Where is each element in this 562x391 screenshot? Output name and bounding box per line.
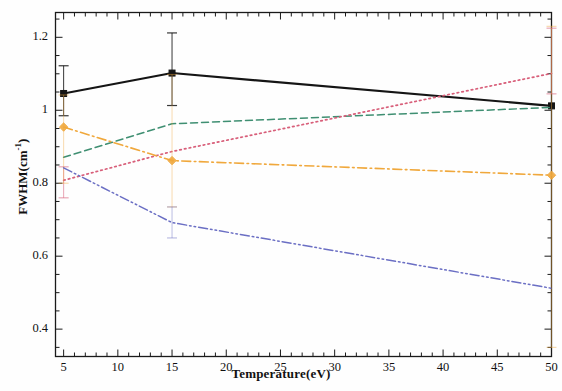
plot-canvas (0, 0, 562, 391)
y-tick-label: 0.8 (8, 175, 48, 190)
chart-figure: Temperature(eV) FWHM(cm-1) 5101520253035… (0, 0, 562, 391)
x-tick-label: 50 (532, 360, 562, 375)
data-point-marker-diamond (59, 123, 67, 131)
y-tick-label: 0.6 (8, 248, 48, 263)
y-axis-title-tail: ) (15, 139, 30, 143)
y-tick-label: 1 (8, 102, 48, 117)
series-line-blue-dashdotdot (64, 168, 552, 288)
x-tick-label: 45 (477, 360, 517, 375)
y-axis-title-exponent: -1 (13, 143, 23, 151)
x-tick-label: 5 (44, 360, 84, 375)
x-tick-label: 35 (369, 360, 409, 375)
x-tick-label: 30 (315, 360, 355, 375)
plot-frame (56, 13, 552, 357)
x-tick-label: 10 (98, 360, 138, 375)
x-tick-label: 25 (260, 360, 300, 375)
data-point-marker-diamond (547, 171, 555, 179)
y-tick-label: 1.2 (8, 29, 48, 44)
series-line-red-dotted (64, 73, 552, 180)
series-line-black-solid (64, 73, 552, 106)
data-point-marker-diamond (168, 156, 176, 164)
x-tick-label: 40 (423, 360, 463, 375)
x-tick-label: 20 (206, 360, 246, 375)
y-tick-label: 0.4 (8, 321, 48, 336)
x-tick-label: 15 (152, 360, 192, 375)
